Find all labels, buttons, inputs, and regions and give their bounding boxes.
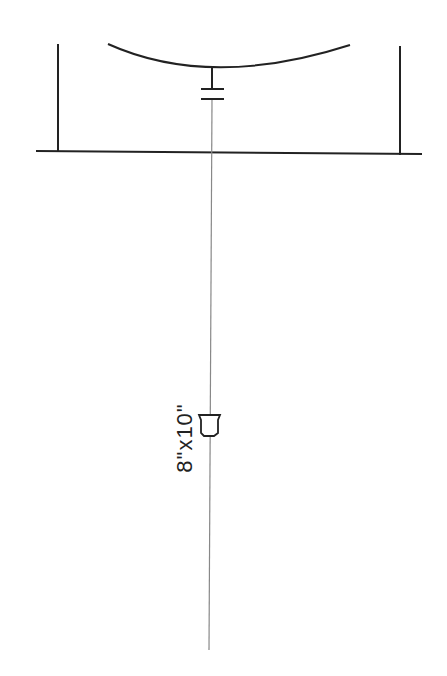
reflector-arc <box>108 44 350 67</box>
feed-line <box>209 100 212 650</box>
ground-line <box>36 151 422 154</box>
size-label: 8"x10" <box>172 403 198 472</box>
horn-icon <box>199 415 220 436</box>
schematic-diagram <box>0 0 447 676</box>
